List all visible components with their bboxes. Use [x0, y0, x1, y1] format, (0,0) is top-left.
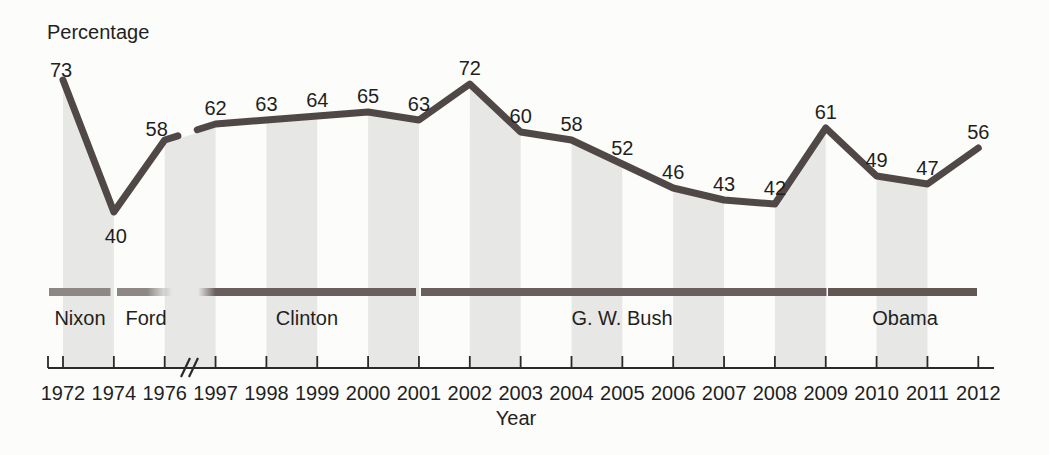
- value-label: 72: [459, 57, 481, 79]
- year-tick-label: 1997: [193, 382, 238, 404]
- value-label: 40: [105, 225, 127, 247]
- term-bar-2: [198, 288, 416, 296]
- year-tick-label: 2003: [498, 382, 543, 404]
- value-label: 43: [713, 173, 735, 195]
- shaded-band: [572, 143, 623, 367]
- shaded-band: [673, 191, 724, 367]
- year-tick-label: 2012: [956, 382, 1001, 404]
- president-label: Nixon: [54, 307, 105, 329]
- y-axis-title: Percentage: [47, 21, 149, 44]
- year-tick-label: 2007: [702, 382, 747, 404]
- survey-chart-svg: 1972197419761997199819992000200120022003…: [0, 0, 1049, 455]
- shaded-band: [266, 119, 317, 367]
- value-label: 61: [815, 101, 837, 123]
- value-label: 56: [967, 121, 989, 143]
- year-tick-label: 2001: [397, 382, 442, 404]
- year-tick-label: 2009: [804, 382, 849, 404]
- value-label: 42: [764, 177, 786, 199]
- axis-tick-labels: 1972197419761997199819992000200120022003…: [41, 382, 1001, 404]
- value-label: 63: [408, 93, 430, 115]
- value-label: 47: [916, 157, 938, 179]
- term-bar-3: [421, 288, 827, 296]
- value-label: 60: [510, 105, 532, 127]
- term-bar-0: [49, 288, 111, 296]
- year-tick-label: 1974: [92, 382, 137, 404]
- year-tick-label: 2008: [753, 382, 798, 404]
- value-label: 58: [560, 113, 582, 135]
- year-tick-label: 1976: [142, 382, 187, 404]
- term-bar-4: [828, 288, 977, 296]
- year-tick-label: 1972: [41, 382, 86, 404]
- shaded-band: [877, 179, 928, 367]
- term-bar-1: [117, 288, 172, 296]
- x-axis-title: Year: [466, 407, 566, 430]
- year-tick-label: 2006: [651, 382, 696, 404]
- year-tick-label: 1999: [295, 382, 340, 404]
- year-tick-label: 2011: [906, 382, 949, 404]
- year-tick-label: 2004: [549, 382, 594, 404]
- value-label: 49: [865, 149, 887, 171]
- value-label: 64: [306, 89, 328, 111]
- year-tick-label: 1998: [244, 382, 289, 404]
- value-label: 46: [662, 161, 684, 183]
- value-label: 52: [611, 137, 633, 159]
- shaded-bands: [63, 83, 927, 367]
- shaded-band: [368, 115, 419, 367]
- approval-line-chart: 1972197419761997199819992000200120022003…: [0, 0, 1049, 455]
- value-label: 65: [357, 85, 379, 107]
- president-label: Clinton: [276, 307, 338, 329]
- year-tick-label: 2000: [346, 382, 391, 404]
- value-label: 58: [146, 118, 168, 140]
- value-label: 63: [255, 93, 277, 115]
- value-label: 62: [204, 97, 226, 119]
- president-label: Obama: [872, 307, 938, 329]
- year-tick-label: 2005: [600, 382, 645, 404]
- value-label: 73: [50, 59, 72, 81]
- president-label: G. W. Bush: [571, 307, 672, 329]
- shaded-band: [165, 127, 216, 367]
- president-label: Ford: [125, 307, 166, 329]
- year-tick-label: 2002: [448, 382, 493, 404]
- year-tick-label: 2010: [854, 382, 899, 404]
